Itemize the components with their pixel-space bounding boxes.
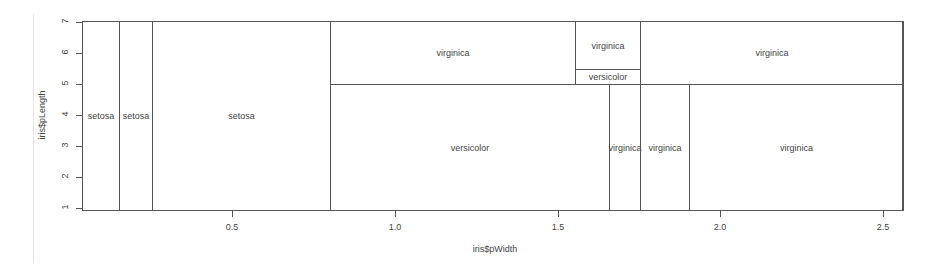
region-label: setosa [123,111,150,121]
region-setosa-2: setosa [119,21,153,211]
x-tick [883,211,884,217]
y-tick [76,177,82,178]
plot-area: setosa setosa setosa virginica virginica… [82,21,903,211]
x-tick [558,211,559,217]
region-virginica-top-1: virginica [330,21,576,85]
region-virginica-top-2: virginica [575,21,641,70]
region-label: virginica [648,143,681,153]
x-tick-label: 0.5 [212,222,252,232]
y-tick-label: 2 [60,169,70,183]
x-tick [720,211,721,217]
y-tick-label: 6 [60,45,70,59]
region-virginica-bottom-3: virginica [689,84,904,211]
region-virginica-bottom-1: virginica [609,84,641,211]
y-tick-label: 1 [60,200,70,214]
y-tick [76,84,82,85]
region-versicolor-top: versicolor [575,69,641,85]
region-setosa-1: setosa [82,21,120,211]
y-tick-label: 3 [60,138,70,152]
region-label: versicolor [451,143,490,153]
y-tick [76,115,82,116]
y-tick [76,146,82,147]
x-tick-label: 1.5 [538,222,578,232]
region-virginica-top-3: virginica [640,21,904,85]
y-tick [76,22,82,23]
x-tick-label: 1.0 [375,222,415,232]
region-setosa-3: setosa [152,21,331,211]
region-versicolor-bottom: versicolor [330,84,610,211]
y-tick-label: 5 [60,76,70,90]
x-tick [395,211,396,217]
y-tick [76,208,82,209]
x-tick-label: 2.5 [863,222,903,232]
region-label: virginica [780,143,813,153]
region-label: virginica [591,41,624,51]
x-axis-title: iris$pWidth [435,244,555,254]
region-label: virginica [609,143,642,153]
region-virginica-bottom-2: virginica [640,84,690,211]
region-label: setosa [88,111,115,121]
region-label: versicolor [589,72,628,82]
y-axis-title: iris$pLength [37,65,47,165]
x-tick [232,211,233,217]
y-tick [76,53,82,54]
x-tick-label: 2.0 [700,222,740,232]
region-label: virginica [755,48,788,58]
region-label: virginica [436,48,469,58]
y-tick-label: 4 [60,107,70,121]
frame-line [33,14,34,262]
y-tick-label: 7 [60,14,70,28]
region-label: setosa [228,111,255,121]
